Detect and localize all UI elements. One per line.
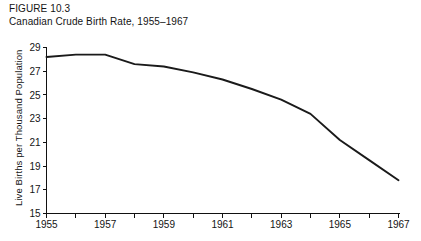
x-axis-tick-labels: 1955195719591961196319651967 [35, 219, 410, 230]
x-tick-label: 1961 [211, 219, 234, 230]
x-tick-label: 1955 [35, 219, 58, 230]
y-tick-label: 17 [29, 184, 41, 195]
y-tick-label: 23 [29, 113, 41, 124]
y-tick-label: 27 [29, 66, 41, 77]
x-tick-label: 1959 [153, 219, 176, 230]
figure-root: FIGURE 10.3 Canadian Crude Birth Rate, 1… [0, 0, 421, 241]
x-tick-label: 1957 [94, 219, 117, 230]
y-tick-label: 21 [29, 137, 41, 148]
x-tick-label: 1963 [270, 219, 293, 230]
chart-plot-area: Live Births per Thousand Population 1517… [0, 0, 421, 241]
x-tick-label: 1967 [387, 219, 410, 230]
data-series-line [47, 55, 399, 181]
y-tick-label: 29 [29, 42, 41, 53]
x-tick-label: 1965 [329, 219, 352, 230]
line-chart-svg: 1517192123252729 19551957195919611963196… [0, 0, 421, 241]
x-axis-tick-marks [47, 214, 399, 218]
y-tick-label: 19 [29, 161, 41, 172]
y-tick-label: 25 [29, 90, 41, 101]
y-tick-label: 15 [29, 208, 41, 219]
y-axis-tick-labels: 1517192123252729 [29, 42, 41, 219]
